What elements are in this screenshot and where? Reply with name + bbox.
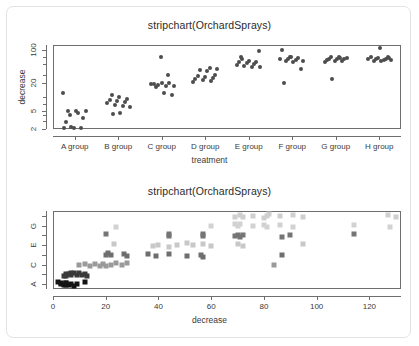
data-marker	[111, 242, 116, 247]
data-marker	[124, 261, 129, 266]
data-point	[215, 67, 219, 71]
data-point	[284, 59, 288, 63]
data-point	[323, 60, 327, 64]
y-tick-bottom	[42, 255, 46, 256]
y-tick-bottom	[42, 284, 46, 285]
x-tick-label-bottom: 20	[101, 302, 110, 311]
data-marker	[240, 215, 245, 220]
data-marker	[238, 222, 243, 227]
y-tick-label-top: 100	[29, 38, 38, 62]
data-point	[289, 55, 293, 59]
data-marker	[167, 252, 172, 257]
chart-panel-top: stripchart(OrchardSprays) 1002052A group…	[7, 7, 411, 173]
data-marker	[280, 252, 285, 257]
data-marker	[272, 263, 277, 268]
data-point	[128, 105, 132, 109]
x-axis-title-bottom: decrease	[7, 315, 411, 325]
data-point	[330, 77, 334, 81]
data-point	[205, 69, 209, 73]
data-point	[69, 125, 73, 129]
data-marker	[119, 262, 124, 267]
y-tick-label-top: 20	[29, 71, 38, 95]
y-minor-tick-top	[43, 75, 46, 76]
data-marker	[103, 264, 108, 269]
data-marker	[385, 212, 390, 217]
data-point	[366, 57, 370, 61]
data-point	[117, 95, 121, 99]
data-marker	[235, 242, 240, 247]
data-marker	[109, 262, 114, 267]
data-marker	[87, 263, 92, 268]
data-marker	[240, 233, 245, 238]
y-tick-label-top: 2	[29, 117, 38, 141]
data-marker	[290, 212, 295, 217]
x-tick-top	[292, 136, 293, 140]
x-tick-bottom	[264, 296, 265, 300]
data-marker	[277, 214, 282, 219]
data-marker	[167, 244, 172, 249]
x-tick-bottom	[317, 296, 318, 300]
data-point	[118, 111, 122, 115]
data-marker	[103, 232, 108, 237]
y-tick-bottom	[42, 216, 46, 217]
x-tick-top	[162, 136, 163, 140]
data-point	[105, 101, 109, 105]
data-marker	[174, 243, 179, 248]
data-marker	[209, 243, 214, 248]
x-tick-bottom	[53, 296, 54, 300]
data-point	[81, 116, 85, 120]
x-tick-label-bottom: 100	[310, 302, 323, 311]
x-tick-top	[336, 136, 337, 140]
figure-card: stripchart(OrchardSprays) 1002052A group…	[6, 6, 411, 338]
y-tick-bottom	[42, 265, 46, 266]
data-point	[84, 109, 88, 113]
data-point	[121, 104, 125, 108]
x-tick-bottom	[211, 296, 212, 300]
data-marker	[153, 253, 158, 258]
y-axis-line-top	[46, 45, 47, 129]
x-tick-top	[249, 136, 250, 140]
x-tick-top	[75, 136, 76, 140]
y-tick-top	[42, 83, 46, 84]
data-point	[170, 93, 174, 97]
data-point	[111, 112, 115, 116]
data-marker	[264, 224, 269, 229]
data-point	[198, 68, 202, 72]
data-point	[280, 48, 284, 52]
x-tick-label-bottom: 60	[207, 302, 216, 311]
y-tick-bottom	[42, 226, 46, 227]
data-point	[61, 91, 65, 95]
data-marker	[85, 273, 90, 278]
y-tick-label-bottom: G	[29, 218, 38, 234]
x-tick-top	[205, 136, 206, 140]
data-point	[64, 120, 68, 124]
data-point	[166, 73, 170, 77]
y-minor-tick-top	[43, 57, 46, 58]
x-axis-line-top	[53, 136, 401, 137]
data-point	[378, 46, 382, 50]
y-tick-top	[42, 111, 46, 112]
data-marker	[145, 251, 150, 256]
data-point	[201, 78, 205, 82]
data-point	[333, 59, 337, 63]
data-marker	[151, 244, 156, 249]
x-tick-bottom	[369, 296, 370, 300]
data-point	[278, 57, 282, 61]
data-marker	[209, 223, 214, 228]
data-marker	[109, 253, 114, 258]
data-marker	[351, 231, 356, 236]
data-point	[299, 67, 303, 71]
x-tick-label-top: E group	[235, 142, 263, 151]
x-tick-label-top: G group	[321, 142, 350, 151]
data-marker	[114, 225, 119, 230]
y-tick-top	[42, 50, 46, 51]
data-marker	[77, 263, 82, 268]
x-tick-label-bottom: 120	[363, 302, 376, 311]
y-axis-line-bottom	[46, 211, 47, 289]
data-marker	[393, 214, 398, 219]
data-marker	[82, 280, 87, 285]
data-marker	[240, 244, 245, 249]
y-minor-tick-top	[43, 121, 46, 122]
data-point	[62, 126, 66, 130]
data-point	[160, 81, 164, 85]
